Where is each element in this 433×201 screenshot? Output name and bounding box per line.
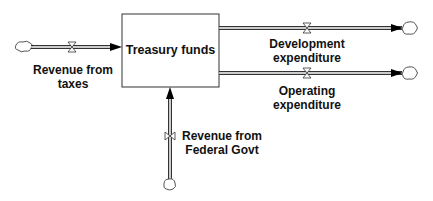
flow-revenue-from-taxes[interactable]: [15, 41, 122, 52]
label-line-1: Revenue from: [172, 129, 272, 143]
arrowhead-icon: [110, 43, 122, 51]
label-line-1: Development: [252, 37, 362, 51]
flow-label-operating-expenditure: Operating expenditure: [252, 84, 362, 112]
cloud-icon: [402, 67, 418, 79]
stock-flow-diagram: [0, 0, 433, 201]
flow-label-development-expenditure: Development expenditure: [252, 37, 362, 65]
flow-label-revenue-from-federal-govt: Revenue from Federal Govt: [172, 129, 272, 157]
stock-label: Treasury funds: [122, 43, 219, 57]
label-line-2: Federal Govt: [172, 143, 272, 157]
cloud-icon: [15, 41, 32, 52]
cloud-icon: [164, 179, 176, 190]
cloud-icon: [402, 22, 418, 34]
arrowhead-icon: [166, 87, 174, 99]
arrowhead-icon: [391, 24, 403, 32]
label-line-2: expenditure: [252, 98, 362, 112]
arrowhead-icon: [391, 69, 403, 77]
label-line-1: Revenue from: [18, 63, 128, 77]
label-line-2: expenditure: [252, 51, 362, 65]
label-line-2: taxes: [18, 77, 128, 91]
flow-development-expenditure[interactable]: [219, 22, 418, 34]
label-line-1: Operating: [252, 84, 362, 98]
flow-operating-expenditure[interactable]: [219, 67, 418, 79]
flow-label-revenue-from-taxes: Revenue from taxes: [18, 63, 128, 91]
